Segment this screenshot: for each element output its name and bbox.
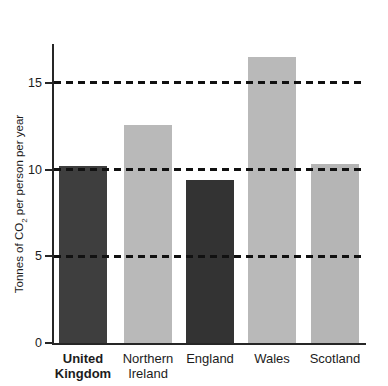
category-label-line1: United [63, 351, 103, 366]
ytick-label-0: 0 [14, 335, 42, 351]
plot-area: UnitedKingdomNorthernIrelandEnglandWales… [52, 44, 366, 345]
ytick-label-15: 15 [14, 75, 42, 91]
co2-bar-chart: Tonnes of CO2 per person per year United… [0, 0, 388, 386]
ytick-mark-0 [45, 342, 52, 344]
ytick-mark-5 [45, 255, 52, 257]
ytick-mark-10 [45, 169, 52, 171]
y-axis-title: Tonnes of CO2 per person per year [13, 115, 28, 293]
bar-wales [248, 57, 296, 343]
gridline-10 [54, 168, 366, 171]
ytick-label-5: 5 [14, 248, 42, 264]
category-label-line2: Ireland [128, 366, 168, 381]
gridline-5 [54, 255, 366, 258]
category-label-scotland: Scotland [290, 351, 380, 366]
y-axis-title-subscript: 2 [20, 218, 29, 222]
ytick-mark-15 [45, 82, 52, 84]
bar-scotland [311, 164, 359, 343]
gridline-15 [54, 81, 366, 84]
bar-northern-ireland [124, 125, 172, 343]
category-label-line1: Scotland [310, 351, 361, 366]
ytick-label-10: 10 [14, 162, 42, 178]
bar-england [186, 180, 234, 343]
category-label-line1: Wales [254, 351, 290, 366]
